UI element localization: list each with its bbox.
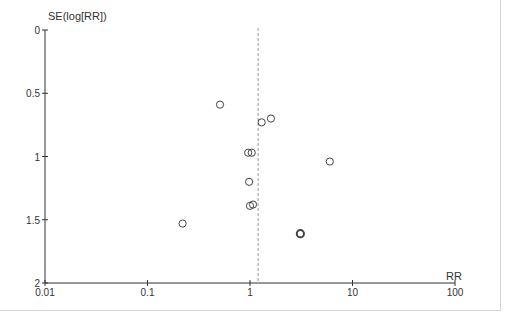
data-point-circle xyxy=(216,101,223,108)
x-tick-label: 0.01 xyxy=(35,287,55,298)
data-point-circle xyxy=(267,115,274,122)
x-tick-label: 10 xyxy=(347,287,359,298)
data-point-circle xyxy=(246,178,253,185)
y-tick-label: 1 xyxy=(34,152,40,163)
data-points xyxy=(179,101,333,237)
y-tick-label: 0.5 xyxy=(26,88,40,99)
x-tick-label: 100 xyxy=(447,287,464,298)
x-axis-label: RR xyxy=(446,270,462,282)
data-point-circle xyxy=(326,158,333,165)
data-point-circle xyxy=(258,119,265,126)
data-point-circle xyxy=(297,230,304,237)
funnel-plot: 00.511.520.010.1110100 SE(log[RR]) RR xyxy=(0,0,500,310)
x-tick-label: 1 xyxy=(247,287,253,298)
y-tick-label: 0 xyxy=(34,25,40,36)
x-tick-label: 0.1 xyxy=(141,287,155,298)
data-point-circle xyxy=(179,220,186,227)
y-axis-label: SE(log[RR]) xyxy=(48,10,107,22)
y-tick-label: 1.5 xyxy=(26,215,40,226)
chart-frame: 00.511.520.010.1110100 SE(log[RR]) RR xyxy=(0,0,501,311)
axes: 00.511.520.010.1110100 xyxy=(26,25,464,298)
